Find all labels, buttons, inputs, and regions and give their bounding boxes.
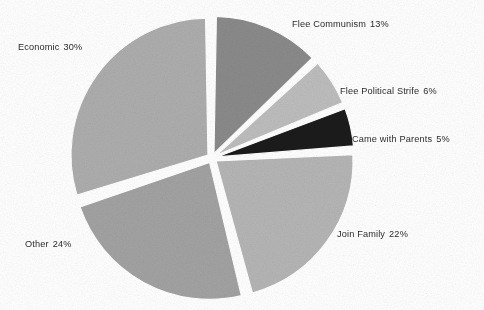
slice-label-join-family: Join Family22% [337,229,408,239]
slice-label-text: Flee Political Strife [340,86,419,96]
slice-label-text: Other [25,239,49,249]
slice-label-value: 13% [370,19,389,29]
slice-label-flee-political-strife: Flee Political Strife6% [340,86,437,96]
slice-label-value: 5% [436,134,450,144]
slice-label-came-with-parents: Came with Parents5% [352,134,450,144]
slice-label-economic: Economic30% [18,42,82,52]
slice-label-text: Flee Communism [292,19,366,29]
slice-label-flee-communism: Flee Communism13% [292,19,389,29]
slice-label-value: 30% [64,42,83,52]
slice-label-text: Join Family [337,229,385,239]
slice-label-text: Came with Parents [352,134,432,144]
slice-label-value: 22% [389,229,408,239]
slice-label-value: 6% [423,86,437,96]
slice-label-other: Other24% [25,239,72,249]
slice-label-value: 24% [53,239,72,249]
slice-label-text: Economic [18,42,60,52]
pie-chart: Flee Communism13% Flee Political Strife6… [0,0,484,310]
